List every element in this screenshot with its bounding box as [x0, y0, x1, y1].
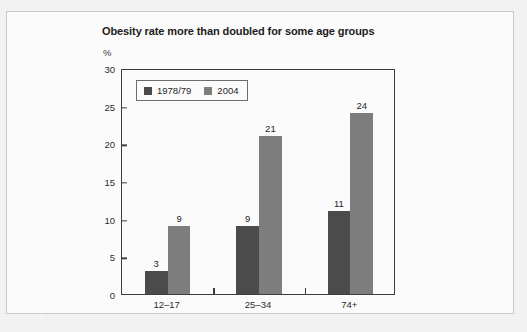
x-axis-category-label: 74+: [341, 299, 357, 310]
y-axis-tick-mark: [122, 220, 127, 221]
x-axis-tick-mark: [213, 288, 214, 294]
bar-value-label: 21: [265, 123, 276, 134]
bar-2004: 21: [259, 136, 282, 294]
legend-label: 2004: [217, 85, 238, 96]
bar-group: 39: [145, 70, 191, 294]
bar-value-label: 9: [176, 213, 181, 224]
bar-1978-79: 11: [328, 211, 351, 294]
y-axis-tick-label: 0: [110, 290, 115, 301]
chart-title: Obesity rate more than doubled for some …: [102, 25, 375, 37]
y-axis-tick-label: 10: [104, 214, 115, 225]
y-axis-tick-label: 20: [104, 139, 115, 150]
bar-group: 1124: [328, 70, 374, 294]
x-axis: 12–1725–3474+: [121, 299, 395, 315]
x-axis-category-label: 12–17: [153, 299, 179, 310]
legend-swatch-2004: [204, 87, 212, 95]
chart-legend: 1978/792004: [136, 80, 248, 101]
x-axis-category-label: 25–34: [245, 299, 271, 310]
bar-1978-79: 3: [145, 271, 168, 294]
bar-1978-79: 9: [236, 226, 259, 294]
legend-label: 1978/79: [157, 85, 191, 96]
y-axis-tick-mark: [122, 182, 127, 183]
y-axis-tick-label: 30: [104, 64, 115, 75]
y-axis-tick-mark: [122, 258, 127, 259]
bar-2004: 9: [168, 226, 191, 294]
y-axis: 051015202530: [7, 12, 121, 313]
y-axis-tick-mark: [122, 145, 127, 146]
bar-2004: 24: [350, 113, 373, 294]
bar-value-label: 3: [154, 258, 159, 269]
bar-value-label: 24: [356, 100, 367, 111]
y-axis-tick-label: 25: [104, 101, 115, 112]
bar-group: 921: [236, 70, 282, 294]
legend-swatch-1978-79: [144, 87, 152, 95]
legend-entry: 1978/79: [144, 85, 191, 96]
y-axis-tick-label: 15: [104, 177, 115, 188]
y-axis-tick-mark: [122, 107, 127, 108]
x-axis-tick-mark: [305, 288, 306, 294]
y-axis-tick-label: 5: [110, 252, 115, 263]
figure-card: Obesity rate more than doubled for some …: [6, 11, 514, 314]
legend-entry: 2004: [204, 85, 238, 96]
bar-value-label: 11: [334, 198, 344, 209]
bars-layer: 399211124: [122, 70, 394, 294]
bar-value-label: 9: [245, 213, 250, 224]
plot-area: 399211124 1978/792004: [121, 69, 395, 295]
